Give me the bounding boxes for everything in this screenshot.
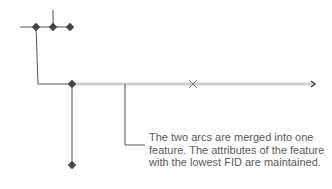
node-icon xyxy=(32,23,40,31)
connector-arc xyxy=(36,27,71,84)
callout-text: The two arcs are merged into one feature… xyxy=(149,131,329,169)
node-icon xyxy=(68,80,76,88)
node-icon xyxy=(66,23,74,31)
callout-leader xyxy=(125,84,145,145)
node-icon xyxy=(49,23,57,31)
node-icon xyxy=(68,161,76,169)
